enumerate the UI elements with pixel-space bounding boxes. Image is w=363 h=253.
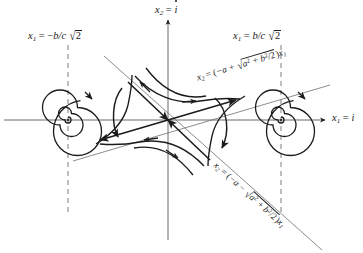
left-spiral-focus — [42, 90, 101, 156]
left-connecting-arc — [113, 88, 122, 137]
lower-eigenvector-guide — [104, 56, 322, 250]
right-spiral-focus — [256, 90, 315, 156]
phase-portrait-figure: x2 = i x1 = i x1 = −b/c √2 x1 = b/c √2 x… — [0, 0, 363, 253]
phase-portrait-canvas — [0, 0, 363, 253]
left-spiral-arrowheads — [85, 92, 92, 99]
